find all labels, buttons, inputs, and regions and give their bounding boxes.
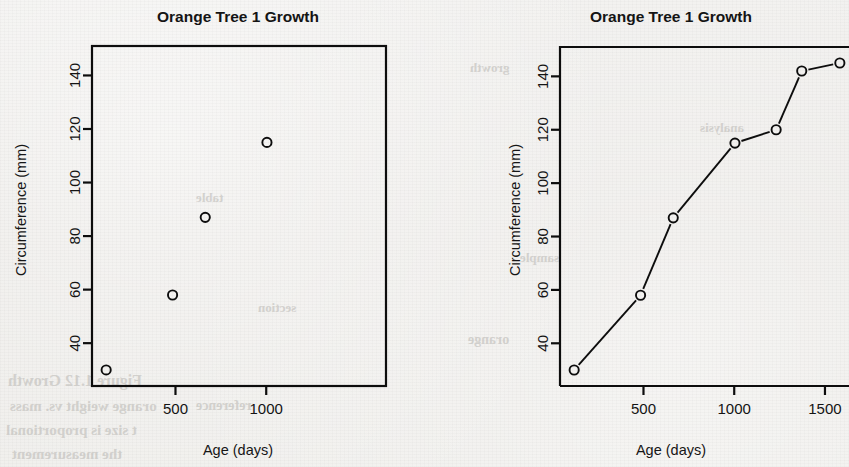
chart-title: Orange Tree 1 Growth <box>590 8 752 25</box>
y-tick-label: 80 <box>67 228 84 245</box>
data-point <box>262 138 271 147</box>
data-point <box>669 213 678 222</box>
x-axis-tick-labels: 5001000 <box>163 400 283 417</box>
y-tick-label: 100 <box>67 170 84 195</box>
x-tick-label: 1500 <box>808 400 841 417</box>
data-point <box>730 138 739 147</box>
plot-frame <box>560 47 849 386</box>
data-point <box>168 290 177 299</box>
data-point <box>835 58 844 67</box>
y-axis-tick-marks <box>83 75 92 343</box>
y-tick-label: 80 <box>535 228 552 245</box>
y-tick-label: 140 <box>535 64 552 89</box>
data-point <box>570 365 579 374</box>
y-tick-label: 120 <box>67 116 84 141</box>
y-tick-label: 40 <box>535 335 552 352</box>
line-segment <box>741 132 769 141</box>
line-segment <box>779 77 799 123</box>
line-segment <box>808 64 833 69</box>
x-tick-label: 1000 <box>250 400 283 417</box>
y-axis-label: Circumference (mm) <box>13 144 29 276</box>
y-axis-tick-labels: 406080100120140 <box>535 64 552 352</box>
y-tick-label: 60 <box>67 281 84 298</box>
line-segment <box>643 224 670 289</box>
line-series-segments <box>579 64 834 364</box>
data-point <box>772 125 781 134</box>
chart-title: Orange Tree 1 Growth <box>157 8 319 25</box>
line-segment <box>579 300 636 365</box>
line-data-points <box>570 58 845 374</box>
x-axis-label: Age (days) <box>636 442 706 458</box>
x-axis-label: Age (days) <box>203 442 273 458</box>
data-point <box>201 213 210 222</box>
chart-panel-line: Orange Tree 1 Growth Circumference (mm) … <box>425 0 849 467</box>
y-tick-label: 140 <box>67 63 84 88</box>
y-axis-label: Circumference (mm) <box>507 144 523 276</box>
y-tick-label: 100 <box>535 171 552 196</box>
y-tick-label: 60 <box>535 282 552 299</box>
line-segment <box>678 148 731 212</box>
x-axis-tick-marks <box>643 386 824 395</box>
chart-panel-scatter: Orange Tree 1 Growth Circumference (mm) … <box>0 0 425 467</box>
x-tick-label: 500 <box>163 400 188 417</box>
y-tick-label: 120 <box>535 117 552 142</box>
y-tick-label: 40 <box>67 335 84 352</box>
y-axis-tick-marks <box>551 76 560 343</box>
x-tick-label: 1000 <box>718 400 751 417</box>
x-axis-tick-labels: 50010001500 <box>631 400 842 417</box>
data-point <box>102 365 111 374</box>
x-tick-label: 500 <box>631 400 656 417</box>
line-plot-svg: Orange Tree 1 Growth Circumference (mm) … <box>425 0 849 467</box>
data-point <box>797 66 806 75</box>
scatter-data-points <box>102 138 272 375</box>
data-point <box>636 291 645 300</box>
plot-frame <box>92 46 386 386</box>
scatter-plot-svg: Orange Tree 1 Growth Circumference (mm) … <box>0 0 425 467</box>
x-axis-tick-marks <box>175 386 266 395</box>
y-axis-tick-labels: 406080100120140 <box>67 63 84 352</box>
